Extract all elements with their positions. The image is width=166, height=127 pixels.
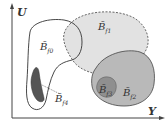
label-f0: B̃f0 [39,41,54,55]
y-axis-label: U [17,6,28,19]
y-arrow-icon [10,3,14,9]
x-axis-label: Y [148,105,157,118]
label-f4: B̃f4 [54,93,69,107]
x-arrow-icon [159,116,165,120]
set-f4 [31,68,44,102]
set-diagram: U Y B̃f0 B̃f1 B̃f2 B̃f3 B̃f4 [0,0,166,127]
